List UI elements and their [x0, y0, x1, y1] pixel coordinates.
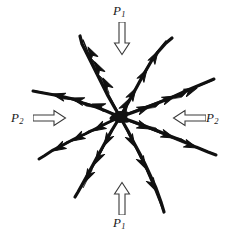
- load-arrow-left-icon: [33, 106, 67, 130]
- load-arrow-right-icon: [172, 106, 206, 130]
- load-label-p1-top-symbol: P: [113, 3, 121, 18]
- load-label-p2-left-subscript: 2: [19, 116, 23, 126]
- load-arrow-bottom-icon: [110, 181, 134, 215]
- load-label-p1-bottom-subscript: 1: [121, 221, 125, 231]
- crack-pattern-figure: P1 P1 P2 P2: [0, 0, 238, 237]
- load-label-p2-right-symbol: P: [206, 110, 214, 125]
- load-label-p2-left-symbol: P: [11, 110, 19, 125]
- load-label-p1-bottom: P1: [113, 216, 126, 230]
- load-label-p2-right-subscript: 2: [214, 116, 218, 126]
- load-label-p2-right: P2: [206, 111, 219, 125]
- load-label-p1-top: P1: [113, 4, 126, 18]
- load-label-p2-left: P2: [11, 111, 24, 125]
- load-arrow-top-icon: [110, 22, 134, 56]
- load-label-p1-bottom-symbol: P: [113, 215, 121, 230]
- load-label-p1-top-subscript: 1: [121, 9, 125, 19]
